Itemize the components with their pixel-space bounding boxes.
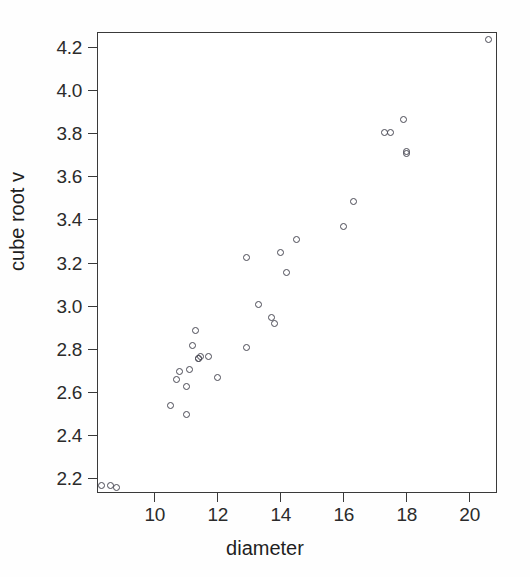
data-point bbox=[176, 368, 183, 375]
y-axis-tick: 3.4 bbox=[88, 219, 97, 220]
x-axis-tick-label: 14 bbox=[270, 504, 291, 526]
x-axis-tick: 20 bbox=[469, 493, 470, 502]
x-axis-tick-label: 10 bbox=[144, 504, 165, 526]
x-axis-tick-label: 16 bbox=[333, 504, 354, 526]
x-axis-tick: 12 bbox=[217, 493, 218, 502]
data-point bbox=[255, 301, 262, 308]
data-point bbox=[340, 223, 347, 230]
data-point bbox=[113, 484, 120, 491]
data-point bbox=[283, 269, 290, 276]
y-axis-tick-label: 3.0 bbox=[56, 296, 82, 318]
data-point bbox=[271, 320, 278, 327]
data-point bbox=[186, 366, 193, 373]
y-axis-tick: 2.6 bbox=[88, 392, 97, 393]
data-point bbox=[197, 353, 204, 360]
data-point bbox=[167, 402, 174, 409]
y-axis-tick-label: 2.4 bbox=[56, 425, 82, 447]
x-axis-title: diameter bbox=[0, 537, 530, 560]
y-axis-tick-label: 3.4 bbox=[56, 209, 82, 231]
y-axis-tick: 3.2 bbox=[88, 263, 97, 264]
y-axis-tick-label: 3.2 bbox=[56, 253, 82, 275]
data-point bbox=[183, 411, 190, 418]
data-point bbox=[485, 36, 492, 43]
data-point bbox=[243, 344, 250, 351]
y-axis-tick-label: 2.8 bbox=[56, 339, 82, 361]
data-points-layer bbox=[98, 33, 496, 492]
y-axis-tick: 2.4 bbox=[88, 435, 97, 436]
x-axis-tick-label: 18 bbox=[396, 504, 417, 526]
x-axis-tick-label: 12 bbox=[207, 504, 228, 526]
data-point bbox=[183, 383, 190, 390]
y-axis-tick: 3.8 bbox=[88, 133, 97, 134]
y-axis-title: cube root v bbox=[6, 112, 29, 332]
scatter-plot-figure: 2.22.42.62.83.03.23.43.63.84.04.2 101214… bbox=[0, 0, 530, 577]
data-point bbox=[350, 198, 357, 205]
y-axis-tick: 2.8 bbox=[88, 349, 97, 350]
y-axis-tick: 4.0 bbox=[88, 90, 97, 91]
y-axis-tick-label: 2.6 bbox=[56, 382, 82, 404]
y-axis-tick-label: 3.6 bbox=[56, 166, 82, 188]
y-axis-tick: 3.6 bbox=[88, 176, 97, 177]
y-axis-tick: 2.2 bbox=[88, 478, 97, 479]
x-axis-tick: 14 bbox=[280, 493, 281, 502]
x-axis-tick: 16 bbox=[343, 493, 344, 502]
x-axis-tick: 10 bbox=[154, 493, 155, 502]
data-point bbox=[192, 327, 199, 334]
y-axis-tick: 3.0 bbox=[88, 306, 97, 307]
x-axis-tick: 18 bbox=[406, 493, 407, 502]
y-axis-tick-label: 2.2 bbox=[56, 468, 82, 490]
y-axis-tick-label: 4.2 bbox=[56, 37, 82, 59]
y-axis-tick-label: 4.0 bbox=[56, 80, 82, 102]
data-point bbox=[205, 353, 212, 360]
x-axis-tick-label: 20 bbox=[459, 504, 480, 526]
data-point bbox=[189, 342, 196, 349]
data-point bbox=[214, 374, 221, 381]
data-point bbox=[98, 482, 105, 489]
data-point bbox=[293, 236, 300, 243]
data-point bbox=[173, 376, 180, 383]
data-point bbox=[400, 116, 407, 123]
y-axis-tick: 4.2 bbox=[88, 47, 97, 48]
y-axis-tick-label: 3.8 bbox=[56, 123, 82, 145]
plot-area bbox=[97, 32, 497, 493]
data-point bbox=[277, 249, 284, 256]
data-point bbox=[243, 254, 250, 261]
data-point bbox=[387, 129, 394, 136]
